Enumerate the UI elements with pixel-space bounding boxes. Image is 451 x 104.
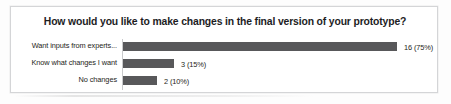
bar-track: 16 (75%)	[123, 41, 439, 54]
bar	[123, 76, 157, 85]
bar-value-label: 16 (75%)	[404, 43, 433, 52]
bar-track: 2 (10%)	[123, 75, 439, 88]
category-label: Want inputs from experts...	[11, 41, 117, 50]
category-label: Know what changes I want	[11, 58, 117, 67]
category-label: No changes	[11, 75, 117, 84]
bar-track: 3 (15%)	[123, 58, 439, 71]
chart-frame: How would you like to make changes in th…	[10, 6, 438, 93]
scan-artifact-bottom	[14, 95, 314, 97]
chart-title: How would you like to make changes in th…	[11, 16, 439, 27]
bar	[123, 42, 397, 51]
bar-row: No changes 2 (10%)	[11, 73, 439, 90]
plot-area: Want inputs from experts... 16 (75%) Kno…	[11, 37, 439, 94]
bar-row: Want inputs from experts... 16 (75%)	[11, 39, 439, 56]
bar-value-label: 2 (10%)	[164, 77, 189, 86]
bar	[123, 59, 174, 68]
bar-row: Know what changes I want 3 (15%)	[11, 56, 439, 73]
scanned-page-background: How would you like to make changes in th…	[0, 0, 451, 104]
bar-value-label: 3 (15%)	[181, 60, 206, 69]
